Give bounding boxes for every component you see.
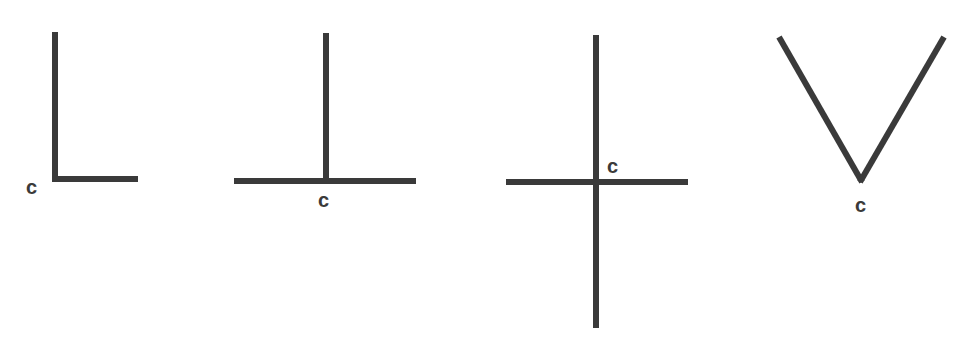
- v-junction-figure: c: [779, 37, 944, 216]
- t-junction-figure: c: [234, 33, 416, 211]
- corner-label: c: [855, 194, 866, 216]
- junction-diagram: cccc: [0, 0, 964, 344]
- corner-label: c: [607, 155, 618, 177]
- l-junction-figure: c: [26, 32, 138, 198]
- line-segment: [860, 37, 944, 182]
- x-junction-figure: c: [506, 35, 688, 328]
- corner-label: c: [318, 189, 329, 211]
- line-segment: [779, 37, 862, 182]
- corner-label: c: [26, 176, 37, 198]
